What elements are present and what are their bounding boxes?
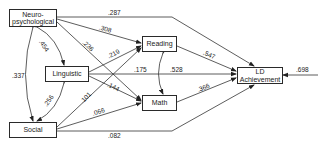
node-ld-line2: Achievement — [240, 76, 280, 84]
coef-337: .337 — [12, 72, 25, 79]
path-social-reading — [57, 48, 141, 127]
node-linguistic: Linguistic — [45, 66, 89, 82]
corr-neuro-social — [26, 27, 34, 121]
node-linguistic-label: Linguistic — [52, 70, 81, 78]
node-ld-line1: LD — [240, 68, 280, 76]
node-reading: Reading — [142, 36, 177, 52]
node-neuropsychological-line2: psychological — [12, 18, 54, 26]
path-neuro-reading — [57, 19, 141, 43]
coef-175: .175 — [134, 66, 147, 73]
node-social: Social — [9, 122, 57, 138]
node-reading-label: Reading — [146, 40, 172, 48]
node-neuropsychological: Neuro- psychological — [9, 9, 57, 27]
coef-528: .528 — [170, 66, 183, 73]
node-ld-achievement: LD Achievement — [237, 67, 283, 84]
node-neuropsychological-line1: Neuro- — [12, 11, 54, 19]
corr-reading-math — [159, 53, 164, 94]
node-social-label: Social — [23, 126, 42, 134]
coef-082: .082 — [108, 132, 121, 139]
coef-287: .287 — [108, 9, 121, 16]
node-math: Math — [142, 95, 177, 111]
coef-698: .698 — [296, 66, 309, 73]
path-neuro-math — [57, 22, 141, 100]
node-math-label: Math — [152, 99, 168, 107]
